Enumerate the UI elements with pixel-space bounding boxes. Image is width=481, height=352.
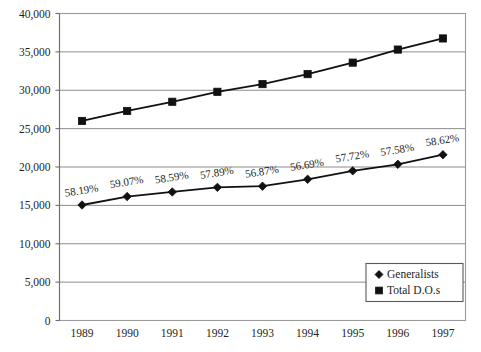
data-point-label: 57.58% [380,141,415,158]
data-point-marker [124,107,131,114]
data-point-marker [214,88,221,95]
data-point-label: 58.59% [154,168,189,185]
y-axis-tick-label: 30,000 [19,84,51,97]
data-point-label: 58.62% [425,131,460,148]
y-axis-tick-label: 15,000 [19,199,51,212]
y-axis-tick-label: 40,000 [19,8,51,21]
chart-legend: GeneralistsTotal D.O.s [366,264,463,302]
y-axis-tick-label: 5,000 [25,276,51,289]
x-axis-tick-labels: 198919901991199219931994199519961997 [71,327,455,339]
data-point-marker [259,81,266,88]
data-point-marker [213,183,221,191]
data-point-marker [78,201,86,209]
x-axis-tick-label: 1992 [206,327,229,339]
data-point-label: 58.19% [64,181,99,198]
line-chart: 05,00010,00015,00020,00025,00030,00035,0… [0,0,481,352]
data-point-marker [168,188,176,196]
data-point-marker [439,151,447,159]
data-point-label: 57.89% [199,164,234,181]
data-point-marker [439,35,446,42]
data-point-marker [258,182,266,190]
x-axis-tick-label: 1989 [71,327,94,339]
data-point-label: 59.07% [109,173,144,190]
data-point-marker [169,98,176,105]
x-axis-tick-label: 1993 [251,327,274,339]
data-point-marker [394,46,401,53]
legend-label: Total D.O.s [387,284,441,296]
x-axis-tick-label: 1995 [341,327,364,339]
legend-marker-square [376,287,383,294]
y-axis-tick-label: 0 [45,315,51,327]
data-point-marker [78,117,85,124]
y-axis-tick-labels: 05,00010,00015,00020,00025,00030,00035,0… [19,8,60,327]
data-point-label: 56.69% [289,156,324,173]
data-point-marker [123,192,131,200]
x-axis-tick-label: 1997 [431,327,454,339]
x-axis-tick-label: 1994 [296,327,319,339]
y-axis-tick-label: 35,000 [19,46,51,59]
series-line-total-d-o-s [82,38,443,121]
data-point-label: 57.72% [334,147,369,164]
data-point-marker [304,71,311,78]
x-axis-tick-label: 1996 [386,327,409,339]
data-point-marker [349,59,356,66]
x-axis-tick-label: 1990 [116,327,139,339]
y-axis-tick-label: 25,000 [19,123,51,136]
legend-label: Generalists [387,268,439,280]
chart-container: 05,00010,00015,00020,00025,00030,00035,0… [0,0,481,352]
y-axis-tick-label: 10,000 [19,238,51,251]
data-point-label: 56.87% [244,163,279,180]
x-axis-tick-label: 1991 [161,327,184,339]
data-point-marker [349,167,357,175]
y-axis-tick-label: 20,000 [19,161,51,174]
data-point-marker [303,175,311,183]
